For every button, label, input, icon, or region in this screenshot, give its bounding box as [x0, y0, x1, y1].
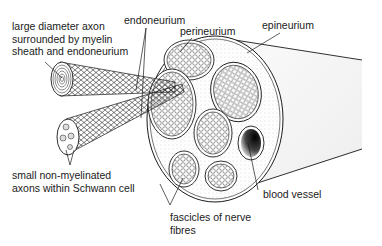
label-fascicles-line1: fascicles of nerve	[170, 211, 251, 224]
label-large-axon-line3: sheath and endoneurium	[12, 45, 128, 58]
label-blood-vessel: blood vessel	[263, 188, 321, 201]
label-small-axons-line1: small non-myelinated	[12, 169, 135, 182]
label-small-axons-line2: axons within Schwann cell	[12, 182, 135, 195]
nerve-diagram: large diameter axon surrounded by myelin…	[0, 0, 382, 246]
label-endoneurium: endoneurium	[124, 14, 185, 27]
label-large-axon: large diameter axon surrounded by myelin…	[12, 20, 128, 58]
label-small-axons: small non-myelinated axons within Schwan…	[12, 169, 135, 194]
fascicle	[205, 161, 237, 191]
label-fascicles-line2: fibres	[170, 224, 251, 237]
label-epineurium: epineurium	[262, 19, 314, 32]
label-fascicles: fascicles of nerve fibres	[170, 211, 251, 236]
label-large-axon-line1: large diameter axon	[12, 20, 128, 33]
blood-vessel	[238, 126, 264, 160]
myelinated-axon-cone	[51, 62, 175, 96]
fascicle	[169, 151, 199, 187]
fascicle	[194, 109, 232, 157]
nerve-cross-section	[147, 36, 283, 202]
label-perineurium: perineurium	[180, 25, 235, 38]
label-large-axon-line2: surrounded by myelin	[12, 33, 128, 46]
